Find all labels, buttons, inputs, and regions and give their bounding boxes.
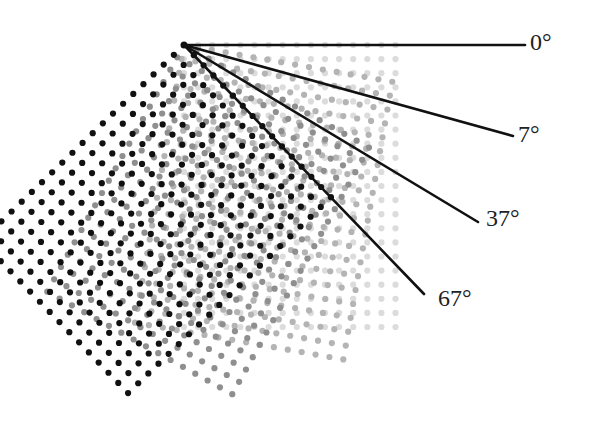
label-0deg: 0° <box>530 30 552 54</box>
label-37deg: 37° <box>486 206 520 230</box>
lattice-layers <box>0 42 399 397</box>
origin-point <box>181 42 188 49</box>
ray-7 <box>184 45 513 136</box>
label-67deg: 67° <box>438 286 472 310</box>
label-7deg: 7° <box>518 122 540 146</box>
